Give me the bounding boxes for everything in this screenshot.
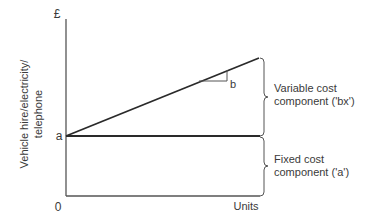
y-axis-label: Vehicle hire/electricity/ telephone bbox=[18, 59, 44, 169]
intercept-label: a bbox=[56, 129, 63, 143]
total-cost-line bbox=[66, 58, 259, 136]
x-axis-label: Units bbox=[233, 200, 259, 212]
y-axis-unit-label: £ bbox=[54, 7, 61, 21]
y-axis-label-line2: telephone bbox=[32, 90, 44, 138]
cost-diagram: £ 0 a b Units Variable cost component ('… bbox=[0, 0, 375, 222]
variable-cost-brace bbox=[260, 58, 268, 136]
variable-component-label-line2: component ('bx') bbox=[274, 95, 355, 107]
origin-label: 0 bbox=[55, 200, 62, 214]
fixed-component-label-line1: Fixed cost bbox=[274, 153, 324, 165]
y-axis-label-line1: Vehicle hire/electricity/ bbox=[18, 59, 30, 169]
slope-triangle bbox=[199, 70, 227, 81]
fixed-component-label-line2: component ('a') bbox=[274, 166, 349, 178]
variable-component-label-line1: Variable cost bbox=[274, 82, 337, 94]
fixed-cost-brace bbox=[260, 137, 268, 196]
slope-label: b bbox=[230, 78, 236, 90]
